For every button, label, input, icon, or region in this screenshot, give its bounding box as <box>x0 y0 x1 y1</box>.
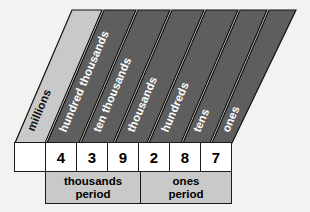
digit-cell-hundred-thousands[interactable]: 4 <box>46 143 77 171</box>
place-value-chart: millions hundred thousands ten thousands… <box>0 0 310 212</box>
period-thousands: thousands period <box>46 172 141 203</box>
digit-cell-ones[interactable]: 7 <box>201 143 231 171</box>
place-value-panel-deck: millions hundred thousands ten thousands… <box>0 0 310 150</box>
period-ones-name: ones <box>173 175 200 188</box>
period-ones: ones period <box>141 172 231 203</box>
digit-cell-hundreds[interactable]: 2 <box>139 143 170 171</box>
digit-cell-millions[interactable] <box>15 143 46 171</box>
digit-cell-ten-thousands[interactable]: 3 <box>77 143 108 171</box>
period-thousands-word: period <box>75 188 110 201</box>
digit-cell-tens[interactable]: 8 <box>170 143 201 171</box>
period-row: thousands period ones period <box>45 172 232 204</box>
period-ones-word: period <box>168 188 203 201</box>
digit-row: 4 3 9 2 8 7 <box>14 142 232 172</box>
digit-cell-thousands[interactable]: 9 <box>108 143 139 171</box>
period-thousands-name: thousands <box>64 175 122 188</box>
